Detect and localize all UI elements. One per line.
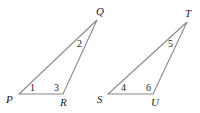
triangle-stu: S U T 4 6 5 [97, 7, 192, 108]
vertex-label-q: Q [96, 5, 104, 17]
angle-label-6: 6 [146, 82, 151, 93]
vertex-label-u: U [151, 96, 160, 108]
vertex-label-s: S [97, 93, 103, 105]
angle-label-5: 5 [168, 38, 173, 49]
triangle-pqr: P R Q 1 3 2 [5, 5, 104, 108]
vertex-label-r: R [59, 96, 67, 108]
triangle-diagram: P R Q 1 3 2 S U T 4 6 5 [0, 0, 200, 113]
angle-label-4: 4 [121, 82, 126, 93]
vertex-label-p: P [5, 93, 13, 105]
vertex-label-t: T [185, 7, 192, 19]
angle-label-3: 3 [54, 82, 59, 93]
angle-label-1: 1 [30, 82, 35, 93]
angle-label-2: 2 [77, 38, 82, 49]
diagram-canvas: P R Q 1 3 2 S U T 4 6 5 [0, 0, 200, 113]
